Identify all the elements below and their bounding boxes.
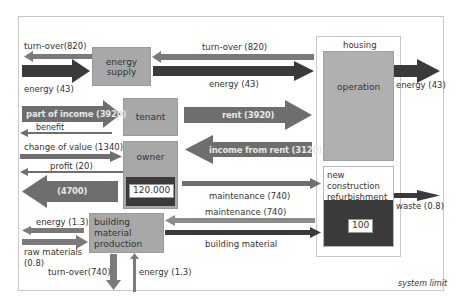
turnover-top-label: turn-over (820) xyxy=(202,43,267,52)
waste-label: waste (0.8) xyxy=(396,202,444,211)
rent-label: rent (3920) xyxy=(222,111,274,120)
raw-materials-label: raw materials xyxy=(24,248,82,257)
benefit-label: benefit xyxy=(36,124,64,132)
building-material-arrow xyxy=(165,227,321,238)
big-out-label: (4700) xyxy=(57,187,87,196)
energy-top-arrow xyxy=(153,61,314,81)
energy-left-label: energy (43) xyxy=(24,85,74,94)
energy-in-arrow xyxy=(22,59,90,83)
energy-bottom-label: energy (1.3) xyxy=(139,268,191,277)
energy-bmp-arrow xyxy=(22,226,84,235)
part-of-income-label: part of income (3920) xyxy=(26,110,126,119)
raw-materials-value: (0.8) xyxy=(24,259,44,268)
turnover-bottom-label: turn-over(740) xyxy=(48,268,111,277)
turnover-left-label: turn-over(820) xyxy=(24,42,87,51)
energy-bottom-arrow xyxy=(130,253,139,292)
energy-bmp-label: energy (1.3) xyxy=(36,218,88,227)
energy-out-label: energy (43) xyxy=(396,81,446,90)
maintenance-owner-arrow xyxy=(182,178,321,189)
income-from-rent-label: income from rent (3120) xyxy=(209,146,322,155)
energy-top-label: energy (43) xyxy=(209,80,259,89)
change-of-value-label: change of value (1340) xyxy=(24,143,123,152)
system-limit-label: system limit xyxy=(398,280,447,288)
waste-arrow xyxy=(394,190,440,201)
turnover-top-arrow xyxy=(152,51,314,63)
turnover-left-arrow xyxy=(24,51,92,62)
maintenance-back-label: maintenance (740) xyxy=(205,208,286,217)
maintenance-owner-label: maintenance (740) xyxy=(209,192,290,201)
benefit-arrow xyxy=(20,129,112,137)
building-material-label: building material xyxy=(205,240,277,249)
profit-label: profit (20) xyxy=(50,162,93,171)
